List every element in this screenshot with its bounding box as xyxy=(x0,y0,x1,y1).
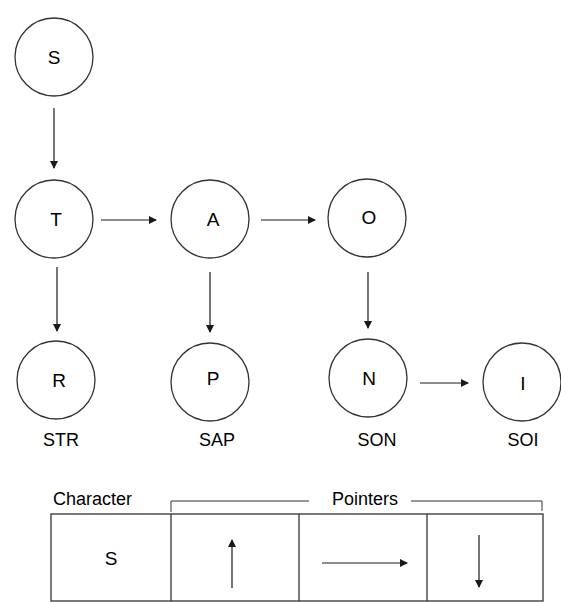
pointers-bracket xyxy=(411,501,542,511)
node-label: S xyxy=(48,47,61,68)
word-label-str: STR xyxy=(43,430,79,450)
node-label: I xyxy=(520,373,525,394)
node-label: N xyxy=(362,368,376,389)
node-I: I xyxy=(483,343,561,421)
node-S: S xyxy=(15,18,93,96)
node-R: R xyxy=(17,341,95,419)
node-record: Character Pointers S xyxy=(51,489,543,601)
node-label: R xyxy=(52,370,66,391)
word-label-sap: SAP xyxy=(199,430,235,450)
word-label-son: SON xyxy=(357,430,396,450)
node-O: O xyxy=(328,179,406,257)
node-label: T xyxy=(50,209,62,230)
node-label: O xyxy=(362,207,377,228)
node-label: P xyxy=(207,368,220,389)
character-value: S xyxy=(105,548,118,569)
word-label-soi: SOI xyxy=(507,430,538,450)
node-T: T xyxy=(15,180,93,258)
node-P: P xyxy=(171,343,249,421)
pointers-header: Pointers xyxy=(332,489,398,509)
node-label: A xyxy=(207,209,220,230)
record-box xyxy=(51,514,543,601)
trie-diagram: S T A O R P N I STR SAP SON SOI Characte… xyxy=(0,0,561,602)
character-header: Character xyxy=(53,489,132,509)
node-A: A xyxy=(171,180,249,258)
pointers-bracket xyxy=(171,501,309,512)
node-N: N xyxy=(329,339,407,417)
